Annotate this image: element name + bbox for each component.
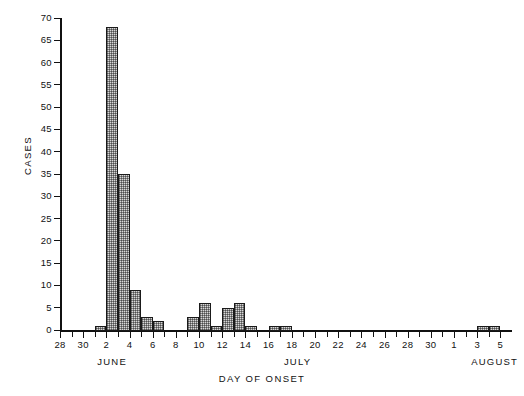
x-axis-tick: [106, 332, 107, 338]
y-axis-tick-label-text: 15: [26, 258, 52, 268]
y-axis-tick-label-text: 50: [26, 102, 52, 112]
y-axis-tick-label: 70: [20, 13, 52, 23]
bar: [199, 303, 211, 331]
x-axis-tick: [454, 332, 455, 338]
y-axis-tick: [54, 285, 61, 286]
bar: [222, 308, 234, 331]
bar: [269, 326, 281, 331]
x-axis-tick: [280, 332, 281, 337]
month-label: JUNE: [67, 357, 157, 367]
y-axis-tick-label: 65: [20, 35, 52, 45]
x-axis-tick: [164, 332, 165, 337]
x-axis-tick: [245, 332, 246, 338]
x-axis-tick-label: 2: [93, 340, 119, 350]
y-axis-tick: [54, 129, 61, 130]
x-axis-tick: [361, 332, 362, 338]
y-axis-tick-label-text: 5: [26, 303, 52, 313]
x-axis-tick: [327, 332, 328, 337]
y-axis-tick: [54, 330, 61, 331]
y-axis-tick-label: 50: [20, 102, 52, 112]
x-axis-title: DAY OF ONSET: [0, 373, 524, 384]
month-label: JULY: [253, 357, 343, 367]
x-axis-tick-label: 5: [487, 340, 513, 350]
x-axis-tick: [141, 332, 142, 337]
x-axis-tick: [222, 332, 223, 338]
x-axis-tick-label: 28: [47, 340, 73, 350]
x-axis-tick: [176, 332, 177, 338]
x-axis-tick: [442, 332, 443, 337]
x-axis-tick: [419, 332, 420, 337]
x-axis-tick: [489, 332, 490, 337]
x-axis-tick: [130, 332, 131, 338]
epidemic-curve-chart: 0510152025303540455055606570 28302468101…: [0, 0, 524, 396]
x-axis-tick-label: 14: [232, 340, 258, 350]
y-axis-tick: [54, 174, 61, 175]
bar: [280, 326, 292, 331]
x-axis-tick: [292, 332, 293, 338]
y-axis-tick: [54, 107, 61, 108]
y-axis-tick-label-text: 10: [26, 280, 52, 290]
month-label: AUGUST: [450, 357, 524, 367]
x-axis-tick-label: 26: [372, 340, 398, 350]
y-axis-tick-label-text: 55: [26, 80, 52, 90]
y-axis-tick-label: 25: [20, 214, 52, 224]
bar: [106, 27, 118, 331]
bar: [118, 174, 130, 331]
bar: [187, 317, 199, 331]
x-axis-tick: [118, 332, 119, 337]
x-axis-tick-label: 6: [140, 340, 166, 350]
y-axis-tick: [54, 218, 61, 219]
x-axis-tick: [350, 332, 351, 337]
bar: [245, 326, 257, 331]
y-axis-tick-label-text: 25: [26, 214, 52, 224]
x-axis-tick-label: 10: [186, 340, 212, 350]
x-axis-tick-label: 3: [464, 340, 490, 350]
y-axis-tick: [54, 18, 61, 19]
x-axis-tick: [303, 332, 304, 337]
x-axis-tick-label: 24: [348, 340, 374, 350]
bar: [130, 290, 142, 331]
x-axis-tick: [373, 332, 374, 337]
x-axis-tick: [187, 332, 188, 337]
bar: [477, 326, 489, 331]
x-axis-tick-label: 12: [209, 340, 235, 350]
x-axis-tick-label: 22: [325, 340, 351, 350]
bar: [211, 326, 223, 331]
x-axis-tick: [408, 332, 409, 338]
x-axis-tick: [477, 332, 478, 338]
y-axis-tick-label: 55: [20, 80, 52, 90]
x-axis-tick-label: 20: [302, 340, 328, 350]
x-axis-tick-label: 1: [441, 340, 467, 350]
y-axis-tick: [54, 151, 61, 152]
x-axis-tick: [72, 332, 73, 337]
y-axis-tick-label-text: 65: [26, 35, 52, 45]
y-axis-tick: [54, 62, 61, 63]
x-axis-tick-label: 18: [279, 340, 305, 350]
x-axis-tick: [315, 332, 316, 338]
x-axis-tick-label: 28: [395, 340, 421, 350]
y-axis-tick-label: 5: [20, 303, 52, 313]
bar: [489, 326, 501, 331]
x-axis-tick: [257, 332, 258, 337]
x-axis-tick: [269, 332, 270, 338]
x-axis-tick: [431, 332, 432, 338]
y-axis-tick-label: 60: [20, 58, 52, 68]
y-axis-tick: [54, 263, 61, 264]
x-axis-tick: [338, 332, 339, 338]
y-axis-tick-label: 20: [20, 236, 52, 246]
x-axis-tick: [211, 332, 212, 337]
y-axis-tick-label-text: 0: [26, 325, 52, 335]
y-axis-tick-label: 15: [20, 258, 52, 268]
bar: [141, 317, 153, 331]
bar: [234, 303, 246, 331]
bar: [95, 326, 107, 331]
x-axis-tick-label: 8: [163, 340, 189, 350]
y-axis-tick-label-text: 20: [26, 236, 52, 246]
x-axis-tick-label: 30: [418, 340, 444, 350]
x-axis-tick: [95, 332, 96, 337]
y-axis-tick: [54, 240, 61, 241]
x-axis-tick: [60, 332, 61, 338]
y-axis-tick-label: 0: [20, 325, 52, 335]
x-axis-tick: [199, 332, 200, 338]
y-axis-tick: [54, 84, 61, 85]
